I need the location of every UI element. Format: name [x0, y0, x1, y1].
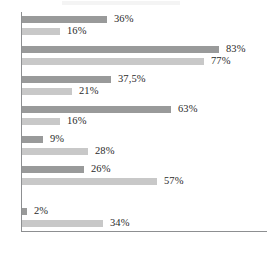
- bar-series-a: [22, 166, 84, 173]
- bar-series-a: [22, 136, 43, 143]
- bar-value-label: 26%: [91, 162, 111, 176]
- plot-area: 36%16%83%77%37,5%21%63%16%9%28%26%57%2%3…: [22, 12, 267, 231]
- bar-value-label: 57%: [164, 174, 184, 188]
- bar-series-a: [22, 16, 107, 23]
- cropped-legend-remnant: [62, 1, 180, 5]
- bar-series-a: [22, 208, 27, 215]
- bar-value-label: 37,5%: [118, 72, 146, 86]
- bar-series-b: [22, 148, 88, 155]
- bar-value-label: 77%: [211, 54, 231, 68]
- bar-series-b: [22, 28, 60, 35]
- bar-value-label: 63%: [178, 102, 198, 116]
- bar-value-label: 36%: [114, 12, 134, 26]
- bar-series-b: [22, 58, 204, 65]
- bar-value-label: 9%: [50, 132, 64, 146]
- bar-value-label: 16%: [67, 24, 87, 38]
- category-baseline-axis: [21, 231, 267, 232]
- bar-series-b: [22, 118, 60, 125]
- bar-value-label: 21%: [79, 84, 99, 98]
- bar-series-a: [22, 76, 111, 83]
- bar-series-a: [22, 106, 171, 113]
- horizontal-bar-chart: 36%16%83%77%37,5%21%63%16%9%28%26%57%2%3…: [0, 0, 267, 261]
- bar-value-label: 34%: [110, 216, 130, 230]
- bar-series-a: [22, 46, 219, 53]
- bar-value-label: 2%: [34, 204, 48, 218]
- bar-series-b: [22, 220, 103, 227]
- bar-value-label: 28%: [95, 144, 115, 158]
- bar-series-b: [22, 88, 72, 95]
- bar-series-b: [22, 178, 157, 185]
- bar-value-label: 16%: [67, 114, 87, 128]
